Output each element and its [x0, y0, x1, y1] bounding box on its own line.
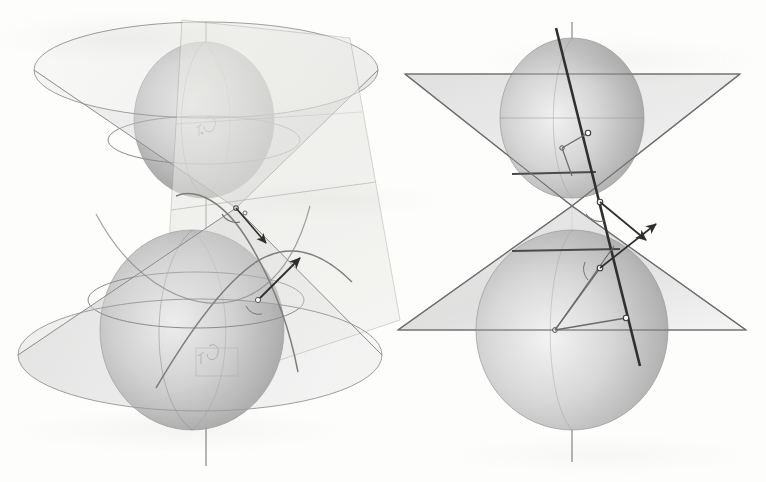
lower-tangent-point-right — [623, 315, 628, 320]
upper-tangent-point-right — [585, 130, 590, 135]
tangent-point-dot-upper-left — [243, 211, 247, 215]
tangent-point-dot-lower-left — [255, 297, 260, 302]
figure-canvas: Dandelin spheres in a double cone cut by… — [0, 0, 766, 482]
dandelin-spheres-figure: Dandelin spheres in a double cone cut by… — [0, 0, 766, 482]
